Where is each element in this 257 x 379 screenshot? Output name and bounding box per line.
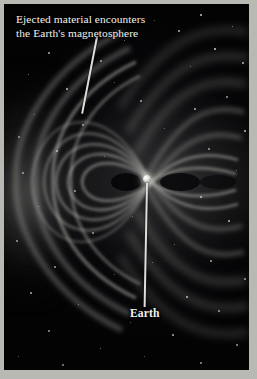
star-field xyxy=(4,4,249,370)
caption-line-2: the Earth's magnetosphere xyxy=(16,27,145,41)
earth-sphere xyxy=(143,175,151,183)
label-earth: Earth xyxy=(130,307,159,320)
caption-ejected-material: Ejected material encounters the Earth's … xyxy=(16,13,145,40)
space-scene: Ejected material encounters the Earth's … xyxy=(4,4,249,370)
caption-line-1: Ejected material encounters xyxy=(16,13,145,27)
figure-frame: Ejected material encounters the Earth's … xyxy=(0,0,257,379)
